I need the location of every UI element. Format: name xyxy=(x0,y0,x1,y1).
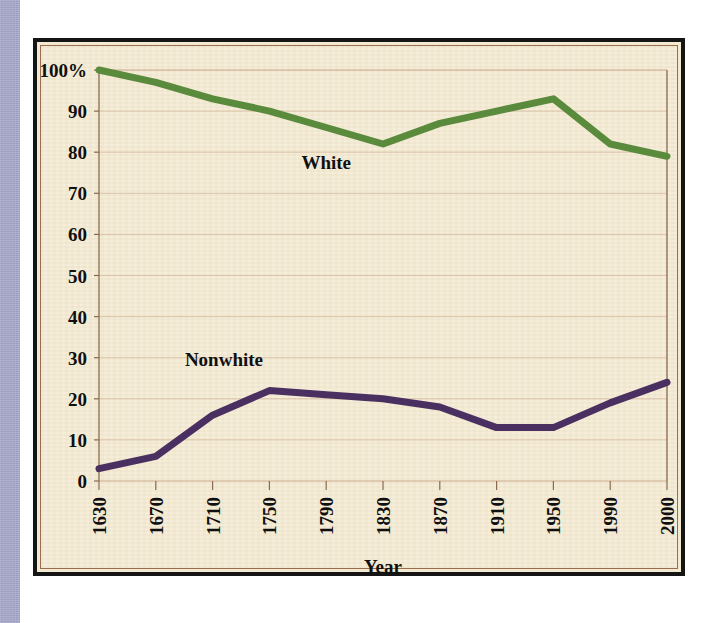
y-tick-label: 10 xyxy=(68,430,87,451)
x-axis-ticks xyxy=(99,481,667,490)
y-tick-label: 20 xyxy=(68,389,87,410)
x-tick-label: 1710 xyxy=(203,497,224,535)
x-tick-label: 1750 xyxy=(259,497,280,535)
line-chart: 0102030405060708090100% 1630167017101750… xyxy=(41,46,685,576)
series-label-nonwhite: Nonwhite xyxy=(185,349,263,370)
y-tick-label: 100% xyxy=(41,60,87,81)
x-tick-label: 1670 xyxy=(146,497,167,535)
chart-frame: 0102030405060708090100% 1630167017101750… xyxy=(33,38,685,576)
x-axis-title-text: Year xyxy=(364,556,403,576)
y-axis-tick-labels: 0102030405060708090100% xyxy=(41,60,87,492)
series-label-white: White xyxy=(301,152,351,173)
y-tick-label: 70 xyxy=(68,183,87,204)
y-tick-label: 30 xyxy=(68,348,87,369)
data-series xyxy=(99,70,667,469)
x-tick-label: 2000 xyxy=(657,497,678,535)
y-tick-label: 50 xyxy=(68,266,87,287)
left-edge-strip xyxy=(0,0,20,623)
x-tick-label: 1790 xyxy=(316,497,337,535)
y-tick-label: 40 xyxy=(68,307,87,328)
series-line-white xyxy=(99,70,667,156)
y-tick-label: 80 xyxy=(68,142,87,163)
gridlines xyxy=(99,70,667,481)
page-title xyxy=(60,0,660,2)
x-axis-tick-labels: 1630167017101750179018301870191019501990… xyxy=(89,497,678,535)
y-tick-label: 60 xyxy=(68,224,87,245)
series-labels: WhiteNonwhite xyxy=(185,152,351,370)
x-tick-label: 1630 xyxy=(89,497,110,535)
x-tick-label: 1950 xyxy=(543,497,564,535)
x-tick-label: 1830 xyxy=(373,497,394,535)
series-line-nonwhite xyxy=(99,382,667,468)
y-tick-label: 90 xyxy=(68,101,87,122)
chart-panel: 0102030405060708090100% 1630167017101750… xyxy=(40,45,678,569)
x-tick-label: 1870 xyxy=(430,497,451,535)
x-axis-title: Year xyxy=(364,556,403,576)
y-tick-label: 0 xyxy=(78,471,88,492)
strip-texture xyxy=(0,0,20,623)
x-tick-label: 1910 xyxy=(487,497,508,535)
x-tick-label: 1990 xyxy=(600,497,621,535)
y-axis-ticks xyxy=(94,70,99,481)
